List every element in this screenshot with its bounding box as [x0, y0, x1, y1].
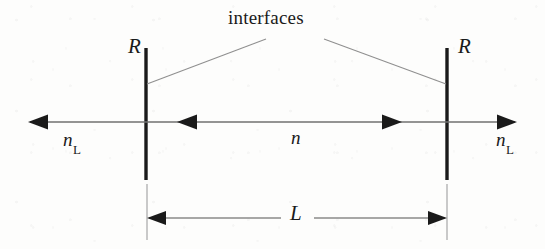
index-label-outer-right: nL — [496, 130, 513, 153]
inner-right-arrowhead — [382, 115, 402, 130]
index-subscript-outer-left: L — [73, 142, 81, 157]
leader-line-left — [147, 39, 266, 84]
interfaces-label: interfaces — [228, 8, 304, 27]
leader-line-right — [324, 39, 446, 84]
index-subscript-outer-right: L — [506, 142, 514, 157]
dimension-right-arrowhead — [428, 211, 447, 225]
figure-root: interfaces R R nL n nL L — [0, 0, 545, 249]
index-symbol-outer-left: n — [63, 129, 73, 150]
dimension-left-arrowhead — [147, 211, 166, 225]
inner-left-arrowhead — [177, 115, 197, 130]
reflectivity-label-right: R — [458, 36, 471, 57]
length-dimension-label: L — [290, 203, 302, 224]
reflectivity-label-left: R — [128, 36, 141, 57]
index-label-outer-left: nL — [63, 130, 80, 153]
index-label-inner: n — [291, 128, 301, 147]
outer-left-arrowhead — [28, 115, 48, 130]
outer-right-arrowhead — [497, 115, 517, 130]
index-symbol-outer-right: n — [496, 129, 506, 150]
